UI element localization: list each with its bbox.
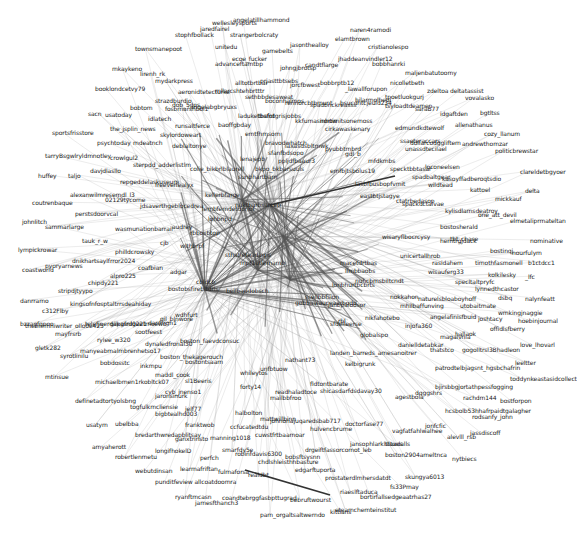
graph-node-label: jaronsinurk bbox=[155, 392, 187, 399]
graph-node-label: philldcrowsky bbox=[115, 248, 154, 255]
graph-node-label: janbpaloosor bbox=[328, 301, 366, 308]
graph-node-label: bostontsaam bbox=[185, 358, 223, 365]
graph-node-label: danrramo bbox=[20, 297, 49, 304]
graph-node-label: magalvnia bbox=[440, 333, 470, 340]
graph-node-label: idlatech bbox=[148, 115, 171, 122]
graph-node-label: delta bbox=[525, 187, 540, 194]
graph-node-label: maljenbatutoomy bbox=[405, 69, 457, 76]
graph-node-label: unitedu bbox=[215, 43, 237, 50]
graph-node-label: gdl_b bbox=[345, 150, 361, 157]
graph-node-label: nuhcbmsbiltcndt bbox=[355, 277, 404, 284]
graph-node-label: saraB77 bbox=[415, 105, 439, 112]
graph-node-label: sammarlarge bbox=[45, 223, 84, 230]
graph-node-label: cjb bbox=[160, 239, 168, 246]
graph-node-label: alevlll_rsb bbox=[447, 433, 476, 440]
graph-node-label: politicbrewstar bbox=[495, 147, 538, 154]
graph-node-label: mtinsue bbox=[45, 373, 69, 380]
graph-node-label: wlthbrpf bbox=[180, 242, 204, 249]
graph-node-label: sunbhartbarn bbox=[238, 173, 277, 180]
graph-node-label: longifhokelD bbox=[155, 447, 191, 454]
graph-node-label: nokkahon bbox=[390, 293, 418, 300]
graph-node-label: bellbaudobsch bbox=[226, 287, 268, 294]
graph-node-label: johnlitch bbox=[22, 218, 47, 225]
graph-node-label: bobtom bbox=[130, 104, 153, 111]
graph-node-label: mickkauf bbox=[495, 195, 521, 202]
graph-node-label: c312Flby bbox=[42, 307, 68, 314]
graph-node-label: hulvencbrume bbox=[310, 425, 352, 432]
graph-node-label: nicolletbeth bbox=[390, 79, 424, 86]
graph-node-label: wisauferg33 bbox=[428, 268, 464, 275]
graph-node-label: angelabgbryuxs bbox=[190, 103, 237, 110]
graph-node-label: wildtead bbox=[428, 181, 453, 188]
graph-node-label: thatstco bbox=[430, 346, 454, 353]
graph-node-label: gletk282 bbox=[35, 344, 61, 351]
graph-node-label: jdsaverthgeblocedrea bbox=[140, 202, 203, 209]
graph-node-label: jamesfthanch3 bbox=[195, 499, 238, 506]
graph-node-label: mayfrsrb bbox=[55, 330, 81, 337]
graph-node-label: bjirsbbgjortathpessfogging bbox=[435, 383, 513, 390]
graph-node-label: offidlsfberry bbox=[490, 325, 525, 332]
graph-node-label: bostforpon bbox=[500, 397, 532, 404]
graph-node-label: alpro225 bbox=[110, 272, 136, 279]
graph-node-label: vagfatfahlwalhee bbox=[392, 427, 442, 434]
graph-node-label: bostosherald bbox=[440, 223, 478, 230]
graph-node-label: edmundkdtewolf bbox=[395, 124, 444, 131]
graph-node-label: robertlenmetu bbox=[115, 453, 157, 460]
graph-node-label: stripdjtyypo bbox=[58, 287, 93, 294]
graph-node-label: perstsdoorvcal bbox=[75, 210, 118, 217]
graph-node-label: tauk_r_w bbox=[82, 237, 108, 244]
graph-node-label: wisaryflbocrcysy bbox=[382, 233, 430, 240]
graph-node-label: allenathanus bbox=[455, 121, 493, 128]
graph-node-label: lirenh_rk bbox=[140, 70, 165, 77]
graph-node-label: prostaterdlmhersdatdt bbox=[325, 474, 391, 481]
graph-node-label: rylee_w320 bbox=[97, 336, 130, 343]
graph-node-label: wdhfurt bbox=[175, 311, 198, 318]
graph-node-label: mydarkpress bbox=[155, 77, 193, 84]
graph-node-label: crowlgul2 bbox=[110, 154, 138, 161]
graph-node-label: spadbaltgear bbox=[412, 173, 450, 180]
graph-node-label: love_lhovarl bbox=[520, 341, 555, 348]
graph-node-label: iaxasdsbltmwk bbox=[285, 142, 328, 149]
graph-node-label: baoffgbday bbox=[218, 121, 251, 128]
graph-node-label: nalynfeatt bbox=[525, 295, 555, 302]
graph-node-label: bigbtealhd003 bbox=[155, 410, 197, 417]
graph-node-label: bortirfallsedgeaatrhas27 bbox=[360, 493, 432, 500]
graph-node-label: manning1018 bbox=[210, 434, 251, 441]
graph-node-label: mhilbaffunving bbox=[400, 302, 444, 309]
graph-node-label: unassdtecilael bbox=[405, 145, 447, 152]
graph-node-label: webutdinsan bbox=[135, 467, 172, 474]
graph-node-label: wasmunationbarrail bbox=[115, 225, 173, 232]
graph-node-label: skungya6013 bbox=[405, 473, 444, 480]
graph-node-label: timothfasmonell bbox=[475, 259, 522, 266]
graph-node-label: angelafinisfbuid bbox=[430, 313, 476, 320]
graph-node-label: mllarcshtehbrtttr bbox=[215, 87, 264, 94]
graph-node-label: boston_faevdconsuc bbox=[180, 337, 239, 344]
graph-node-label: nortimitsonemoss bbox=[320, 117, 372, 124]
graph-node-label: sl1Beeris bbox=[185, 377, 211, 384]
graph-node-label: bobsftsysnn bbox=[285, 453, 320, 460]
graph-node-label: usatoday bbox=[105, 111, 132, 118]
graph-node-label: specltaltpryfc bbox=[455, 278, 494, 285]
graph-node-label: mailbbfroo bbox=[270, 394, 301, 401]
graph-node-label: deltatassist bbox=[450, 87, 483, 94]
graph-node-label: rodsanfy_john bbox=[472, 413, 513, 420]
graph-node-label: lenajepb bbox=[240, 155, 265, 162]
graph-node-label: definetadtortyolsbng bbox=[75, 397, 136, 404]
graph-node-label: forty14 bbox=[240, 383, 261, 390]
graph-node-label: gamebelts bbox=[262, 47, 293, 54]
graph-node-label: lohbnpd bbox=[208, 215, 232, 222]
graph-node-label: mkaykeno bbox=[112, 65, 142, 72]
graph-node-label: nominative bbox=[530, 237, 563, 244]
graph-node-label: rbbosbtop bbox=[190, 229, 220, 236]
graph-node-label: michaelbmen1rkobltck07 bbox=[95, 378, 169, 385]
graph-node-label: bkpo_bkbarsuuls bbox=[255, 165, 304, 172]
graph-node-label: nourfulym bbox=[512, 249, 542, 256]
graph-node-label: chipdy221 bbox=[88, 279, 119, 286]
graph-node-label: candtflarge bbox=[305, 61, 338, 68]
graph-node-label: joshtacy bbox=[478, 315, 502, 322]
graph-node-label: bobbhanrki bbox=[372, 60, 405, 67]
graph-node-label: b1ctdcc1 bbox=[528, 259, 555, 266]
graph-node-label: cozy_llanum bbox=[484, 130, 520, 137]
graph-node-label: tarryBsgwlryldmnotley bbox=[45, 152, 111, 159]
